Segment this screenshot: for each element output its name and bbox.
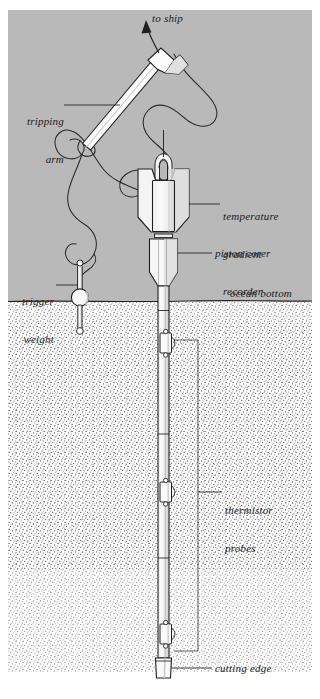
piston-corer	[150, 234, 178, 286]
label-trigger-weight: trigger weight	[8, 270, 54, 370]
trigger-weight-lower-rod	[78, 305, 82, 329]
label-ocean-bottom: ocean bottom	[230, 287, 292, 300]
trigger-weight-bottom-knob	[77, 328, 84, 335]
label-piston-corer: piston corer	[215, 247, 270, 260]
diagram-frame: tripping arm to ship trigger weight temp…	[8, 10, 312, 682]
corer-coupling	[155, 234, 173, 238]
cutting-edge	[156, 658, 172, 678]
label-tripping-arm: tripping arm	[8, 90, 64, 190]
recorder-pressure-case	[153, 181, 175, 232]
label-cutting-edge: cutting edge	[215, 662, 271, 675]
label-thermistor-probes: thermistor probes	[225, 479, 273, 579]
label-to-ship: to ship	[152, 12, 183, 25]
figure-root: tripping arm to ship trigger weight temp…	[0, 0, 320, 699]
trigger-weight-top-knob	[77, 260, 83, 266]
